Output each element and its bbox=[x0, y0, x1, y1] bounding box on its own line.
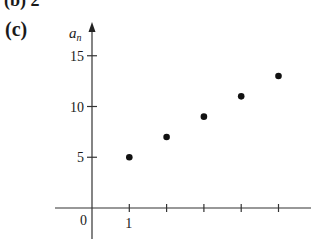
data-point bbox=[275, 73, 282, 80]
data-point bbox=[201, 113, 208, 120]
y-tick-label: 10 bbox=[70, 100, 84, 115]
y-tick-label: 15 bbox=[70, 49, 84, 64]
origin-label: 0 bbox=[80, 213, 87, 228]
data-points bbox=[126, 73, 282, 161]
y-axis-label: an bbox=[69, 25, 82, 43]
data-point bbox=[238, 93, 245, 100]
scatter-chart: 1 51015 0 an bbox=[0, 0, 311, 239]
y-tick-label: 5 bbox=[77, 150, 84, 165]
data-point bbox=[163, 134, 170, 141]
x-tick-label: 1 bbox=[125, 216, 132, 231]
y-axis-arrow-icon bbox=[89, 22, 96, 32]
data-point bbox=[126, 154, 133, 161]
y-ticks: 51015 bbox=[70, 49, 97, 166]
